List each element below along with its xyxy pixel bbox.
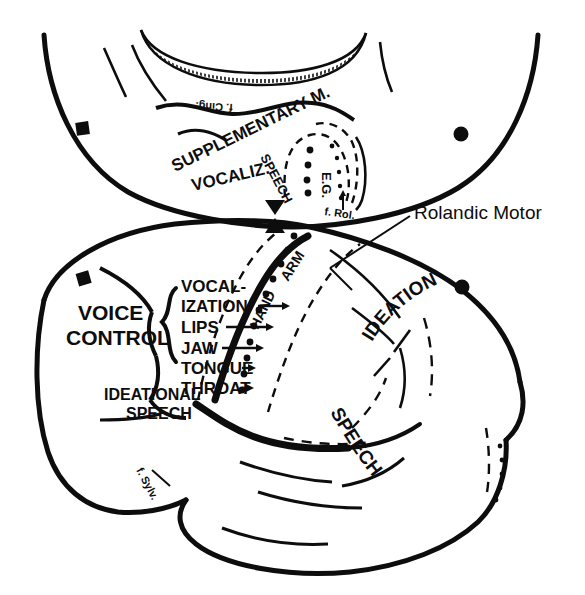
medial-sulcus-c <box>380 42 392 92</box>
motor-label-brace <box>162 288 176 362</box>
homunculus-label-lips: LIPS <box>181 318 219 337</box>
label-voice-control-line2: CONTROL <box>66 326 170 349</box>
rolandic-motor-leader-line-2 <box>330 268 352 290</box>
occipital-dashed <box>486 428 489 498</box>
label-ideational-speech-line2: SPEECH <box>126 405 192 422</box>
parietal-gyrus-4 <box>400 348 405 408</box>
ideational-tick <box>394 330 410 352</box>
circle-marker <box>455 280 470 295</box>
homunculus-label-vocalization-line1: VOCAL- <box>181 277 246 296</box>
label-voice-control-line1: VOICE <box>78 301 143 324</box>
circle-marker <box>454 127 469 142</box>
homunculus-label-jaw: JAW <box>181 339 219 358</box>
corpus-callosum <box>141 30 366 85</box>
f-rol-arrowhead <box>340 190 346 196</box>
triangle-marker-up <box>265 200 285 215</box>
ideational-tick-2 <box>374 358 390 376</box>
occipital-outline <box>506 382 523 440</box>
rolandic-motor-label: Rolandic Motor <box>414 202 542 223</box>
brain-diagram-svg: f. Cing. SUPPLEMENTARY M. VOCALIZ. SPEEC… <box>0 0 585 595</box>
label-f-cing: f. Cing. <box>195 100 233 114</box>
temporal-gyrus-2 <box>258 492 362 508</box>
parietal-gyrus-3 <box>424 318 432 396</box>
square-marker <box>76 270 92 286</box>
sylvian-fissure <box>196 404 348 449</box>
medial-sulcus-a <box>104 48 126 97</box>
label-f-sylv: f. Sylv. <box>134 465 161 501</box>
supramarginal-dashed <box>352 378 386 428</box>
temporal-gyrus-1 <box>240 462 332 482</box>
label-eg: E.G. <box>319 172 334 198</box>
square-marker <box>75 121 90 136</box>
figure-canvas: f. Cing. SUPPLEMENTARY M. VOCALIZ. SPEEC… <box>0 0 585 595</box>
homunculus-label-throat: THROAT <box>181 379 251 398</box>
label-vocaliz: VOCALIZ. <box>190 159 272 195</box>
medial-view-group: f. Cing. SUPPLEMENTARY M. VOCALIZ. SPEEC… <box>44 30 538 227</box>
label-f-rol: f. Rol. <box>324 205 356 221</box>
temporal-gyrus-3 <box>222 528 328 544</box>
homunculus-label-vocalization-line2: IZATION <box>181 297 248 316</box>
